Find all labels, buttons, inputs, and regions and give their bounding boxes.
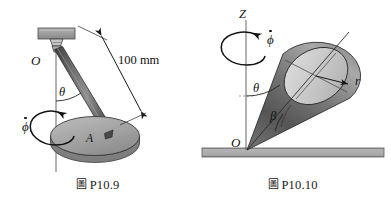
label-dimension-100mm: 100 mm xyxy=(118,54,159,67)
label-phi-dot-left: ϕ xyxy=(22,120,29,133)
caption-mark-right: 圖 xyxy=(268,178,279,191)
figure-p10-9: O 100 mm θ ϕ A 圖P10.9 xyxy=(0,0,196,199)
ground-strip xyxy=(202,148,384,157)
label-disk-a: A xyxy=(86,133,93,145)
label-phi-dot-right: ϕ xyxy=(267,33,274,46)
label-origin-o-right: O xyxy=(231,136,240,149)
label-z-axis: Z xyxy=(239,8,246,21)
caption-mark-left: 圖 xyxy=(76,178,87,191)
label-radius-r: r xyxy=(355,75,360,87)
label-theta-right: θ xyxy=(253,82,259,95)
precession-arrow xyxy=(221,32,265,65)
caption-text-right: P10.10 xyxy=(281,178,317,192)
ceiling-mount-block xyxy=(38,28,75,39)
caption-p10-9: 圖P10.9 xyxy=(0,175,196,193)
figure-p10-9-drawing xyxy=(0,0,196,199)
label-beta: β xyxy=(270,110,276,123)
label-theta-left: θ xyxy=(59,86,65,99)
figure-p10-10: Z ϕ θ β r O 圖P10.10 xyxy=(195,0,391,199)
label-origin-o-left: O xyxy=(31,54,40,67)
phi-dot-glyph-right: ϕ xyxy=(267,33,274,46)
caption-p10-10: 圖P10.10 xyxy=(195,175,391,193)
disk-a xyxy=(51,117,140,163)
figure-sheet: O 100 mm θ ϕ A 圖P10.9 xyxy=(0,0,391,199)
figure-p10-10-drawing xyxy=(195,0,391,199)
caption-text-left: P10.9 xyxy=(90,178,120,192)
dimension-line-100mm xyxy=(78,26,146,125)
phi-dot-glyph-left: ϕ xyxy=(22,120,29,133)
